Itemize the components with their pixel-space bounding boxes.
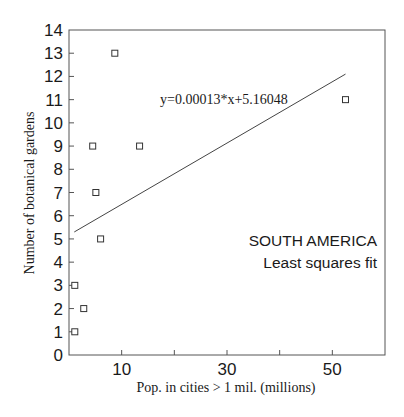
y-tick-label: 12: [44, 67, 63, 86]
y-axis: 01234567891011121314: [44, 21, 74, 365]
y-tick-label: 14: [44, 21, 63, 40]
y-tick-label: 7: [54, 184, 63, 203]
x-tick-label: 50: [323, 360, 342, 379]
y-tick-label: 13: [44, 44, 63, 63]
data-point-marker: [343, 97, 349, 103]
y-tick-label: 10: [44, 114, 63, 133]
data-point-marker: [112, 50, 118, 56]
x-tick-label: 30: [218, 360, 237, 379]
scatter-chart: 01234567891011121314 103050 y=0.00013*x+…: [0, 0, 404, 417]
x-tick-label: 10: [112, 360, 131, 379]
y-tick-label: 5: [54, 230, 63, 249]
y-tick-label: 6: [54, 207, 63, 226]
y-axis-title: Number of botanical gardens: [22, 112, 37, 275]
data-point-marker: [90, 143, 96, 149]
data-point-marker: [81, 306, 87, 312]
x-axis-title: Pop. in cities > 1 mil. (millions): [136, 380, 315, 396]
y-tick-label: 4: [54, 253, 63, 272]
y-tick-label: 1: [54, 323, 63, 342]
y-tick-label: 9: [54, 137, 63, 156]
y-tick-label: 2: [54, 300, 63, 319]
data-point-marker: [98, 236, 104, 242]
y-tick-label: 3: [54, 276, 63, 295]
equation-label: y=0.00013*x+5.16048: [160, 92, 288, 107]
y-tick-label: 0: [54, 346, 63, 365]
data-point-marker: [93, 190, 99, 196]
data-point-marker: [72, 282, 78, 288]
region-label: SOUTH AMERICA: [249, 232, 378, 249]
y-tick-label: 11: [45, 91, 63, 110]
y-tick-label: 8: [54, 160, 63, 179]
data-point-marker: [72, 329, 78, 335]
data-point-marker: [137, 143, 143, 149]
method-label: Least squares fit: [263, 254, 377, 271]
x-axis: 103050: [112, 350, 342, 379]
